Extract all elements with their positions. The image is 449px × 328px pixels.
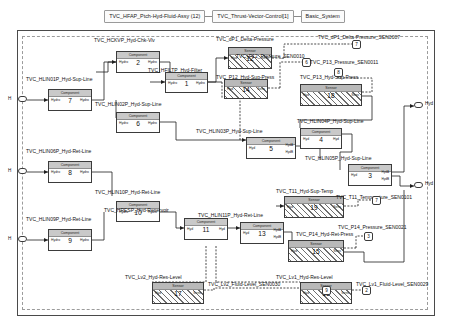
block-p14-hyd-ret-press[interactable]: Sensor Hyd 15 Sens [288,240,344,262]
block-hlin11p-hyd-ret-line[interactable]: Component Hyd 13 HydA HydB [240,222,284,244]
port-out-label: Hydro [148,121,157,125]
block-p13-hyd-sup-press[interactable]: Sensor Hyd 18 Sens [300,84,362,106]
port-out-label-a: HydA [273,228,281,232]
block-label-hlin09p: TVC_HLIN09P_Hyd-Ret-Line [26,216,91,222]
block-caption: Component [49,162,91,169]
block-p12-hyd-sup-press[interactable]: Sensor Hyd 14 Sens [224,79,268,99]
block-label-hlin05p: TVC_HLIN05P_Hyd-Sup-Line [305,155,371,161]
breadcrumb-separator [294,16,301,17]
block-caption: Sensor [153,283,203,290]
breadcrumb-separator [205,16,212,17]
input-port-label-3: H [8,236,11,241]
port-out-label-b: HydB [381,177,389,181]
block-label-t11: TVC_T11_Hyd-Sup-Temp [276,188,333,194]
output-port-label-2: Hyd [425,181,433,186]
block-hfiltp-hyd-filter[interactable]: Component Hydro 1 Hydro [165,72,208,93]
signal-output-lv2-sen0030[interactable]: 9 [322,286,331,295]
block-t11-hyd-sup-temp[interactable]: Sensor Hyd 19 Sens [284,196,344,218]
block-label-lv1: TVC_Lv1_Hyd-Res-Level [276,274,333,280]
port-out-label: Sens [341,291,349,295]
signal-label-p13-sen0011: TVC_P13_Pressure_SEN0011 [310,59,378,65]
output-port-hyd-1[interactable] [414,102,423,108]
block-caption: Component [117,52,159,59]
block-hresp-hyd-reservoir[interactable]: Component Hyd 11 Hyd [184,218,228,240]
input-port-hyd-2[interactable] [18,168,27,174]
signal-output-dp1-sen0007[interactable]: 7 [352,40,361,49]
block-label-hckvp: TVC_HCKVP_Hyd-Chk-Vlv [94,37,155,43]
block-label-hresp: TVC_HRESP_Hyd-Reservoir [104,207,169,213]
signal-label-lv2-sen0030: TVC_Lv2_Fluid-Level_SEN0030 [208,281,280,287]
port-out-label: Hydro [80,98,89,102]
input-port-hyd-1[interactable] [18,96,27,102]
signal-output-p13-sen0011[interactable]: 8 [334,68,343,77]
block-label-hlin04p: TVC_HLIN04P_Hyd-Sup-Line [297,118,363,124]
block-label-p13: TVC_P13_Hyd-Sup-Press [300,74,358,80]
block-label-lv2: TVC_Lv2_Hyd-Res-Level [125,274,182,280]
breadcrumb-item-basic-system[interactable]: Basic_System [301,10,345,23]
port-out-label-a: HydA [285,143,293,147]
breadcrumb-item-subsystem[interactable]: TVC_Thrust-Vector-Control[1] [212,10,293,23]
block-label-hlin10p: TVC_HLIN10P_Hyd-Ret-Line [95,189,160,195]
port-out-label: Hydro [148,60,157,64]
signal-label-p12-sen0010: TVC_P12_Pressure_SEN0010 [236,53,305,59]
block-hlin04p-hyd-sup-line[interactable]: Component Hyd 4 Hyd [300,128,342,149]
port-out-label: Sens [257,87,265,91]
port-out-label-a: HydA [381,170,389,174]
block-label-p14: TVC_P14_Hyd-Ret-Press [296,231,353,237]
block-hlin02p-hyd-sup-line[interactable]: Component Hydro 6 Hydro [116,112,160,133]
port-out-label: Hyd [333,137,339,141]
breadcrumb: TVC_HFAP_Ptch-Hyd-Fluid-Assy (12) TVC_Th… [0,8,449,24]
block-hlin06p-hyd-ret-line[interactable]: Component Hydro 8 Hydro [48,161,92,183]
block-caption: Component [49,90,91,97]
port-out-label: Hyd [219,227,225,231]
output-port-hyd-2[interactable] [414,182,423,188]
input-port-hyd-3[interactable] [18,236,27,242]
block-lv2-hyd-res-level[interactable]: Sensor Hyd 17 Sens [152,282,204,304]
port-out-label: Sens [333,249,341,253]
block-caption: Sensor [301,85,361,92]
port-out-label: Hydro [80,170,89,174]
port-out-label: Sens [333,205,341,209]
port-out-label-b: HydB [273,235,281,239]
block-hlin09p-hyd-ret-line[interactable]: Component Hydro 9 Hydro [48,229,92,251]
block-caption: Sensor [289,241,343,248]
port-out-label: Hydro [80,238,89,242]
block-label-hlin03p: TVC_HLIN03P_Hyd-Sup-Line [196,128,262,134]
port-out-label: Sens [351,93,359,97]
breadcrumb-item-model[interactable]: TVC_HFAP_Ptch-Hyd-Fluid-Assy (12) [104,10,205,23]
signal-output-t11-sen0101[interactable]: 7 [372,196,381,205]
block-label-hlin06p: TVC_HLIN06P_Hyd-Ret-Line [26,148,91,154]
block-hlin03p-hyd-sup-line[interactable]: Component Hyd 5 HydA HydB [246,137,296,159]
block-caption: Component [185,219,227,226]
port-out-label-b: HydB [285,150,293,154]
output-port-label-1: Hyd [425,101,433,106]
input-port-label-1: H [8,96,11,101]
signal-label-p14-sen0021: TVC_P14_Pressure_SEN0021 [338,224,407,230]
block-label-hlin11p: TVC_HLIN11P_Hyd-Ret-Line [198,212,263,218]
signal-output-lv1-sen0029[interactable]: 2 [362,286,371,295]
block-hlin05p-hyd-sup-line[interactable]: Component Hyd 3 HydA HydB [348,164,392,186]
block-caption: Component [49,230,91,237]
port-out-label: Hydro [196,81,205,85]
block-hlin01p-hyd-sup-line[interactable]: Component Hydro 7 Hydro [48,89,92,111]
block-label-hlin01p: TVC_HLIN01P_Hyd-Sup-Line [26,76,92,82]
block-label-dp1: TVC_dP1_Delta-Pressure [216,36,274,42]
diagram-canvas: TVC_HFAP_Ptch-Hyd-Fluid-Assy (12) TVC_Th… [0,0,449,328]
signal-output-p14-sen0021[interactable]: 3 [364,232,373,241]
block-label-hlin02p: TVC_HLIN02P_Hyd-Sup-Line [95,101,161,107]
input-port-label-2: H [8,168,11,173]
port-out-label: Sens [193,291,201,295]
block-caption: Sensor [285,197,343,204]
